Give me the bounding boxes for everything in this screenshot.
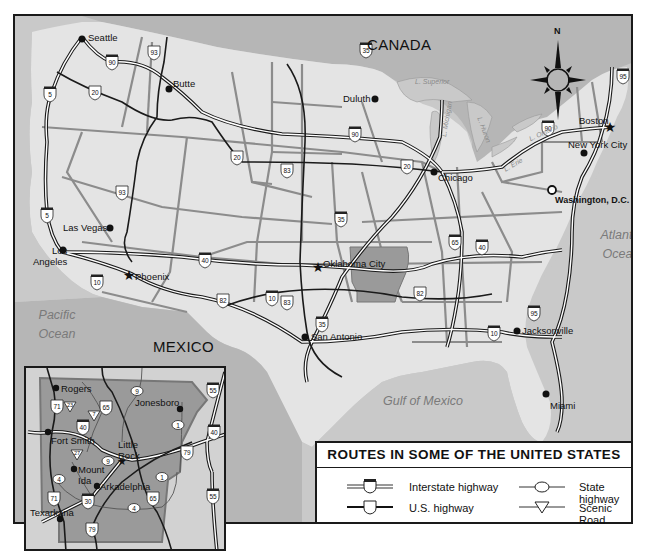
svg-text:95: 95: [530, 310, 538, 317]
svg-text:5: 5: [48, 91, 52, 98]
svg-text:93: 93: [150, 49, 158, 56]
inset-city-arkadelphia: Arkadelphia: [100, 482, 150, 492]
svg-text:82: 82: [219, 297, 227, 304]
inset-city-fort-smith: Fort Smith: [51, 436, 95, 446]
svg-text:4: 4: [132, 505, 136, 512]
legend: ROUTES IN SOME OF THE UNITED STATES Inte…: [315, 441, 633, 524]
svg-text:40: 40: [79, 424, 87, 431]
inset-city-texarkana: Texarkana: [30, 508, 74, 518]
svg-text:20: 20: [403, 163, 411, 170]
city-san-antonio: San Antonio: [311, 332, 362, 342]
city-phoenix: Phoenix: [135, 272, 169, 282]
svg-text:10: 10: [490, 330, 498, 337]
label-canada: CANADA: [367, 36, 431, 53]
scenic-road-symbol-icon: [517, 499, 567, 515]
svg-text:10: 10: [268, 295, 276, 302]
svg-text:65: 65: [102, 404, 110, 411]
svg-text:82: 82: [416, 290, 424, 297]
state-highway-symbol-icon: [517, 479, 567, 495]
svg-text:79: 79: [88, 526, 96, 533]
legend-interstate-label: Interstate highway: [409, 481, 498, 493]
label-pacific-ocean: PacificOcean: [27, 306, 87, 345]
city-washington-dc: Washington, D.C.: [555, 196, 629, 205]
compass-rose: N: [528, 26, 588, 121]
svg-text:95: 95: [619, 73, 627, 80]
city-boston: Boston: [579, 116, 609, 126]
label-lake-superior: L. Superior: [415, 78, 449, 85]
compass-north-label: N: [554, 26, 561, 36]
label-gulf-of-mexico: Gulf of Mexico: [383, 392, 463, 411]
svg-text:71: 71: [50, 495, 58, 502]
svg-text:93: 93: [118, 189, 126, 196]
svg-text:1: 1: [176, 422, 180, 429]
svg-text:71: 71: [53, 403, 61, 410]
city-duluth: Duluth: [343, 94, 370, 104]
city-oklahoma-city: Oklahoma City: [323, 259, 385, 269]
svg-text:83: 83: [283, 167, 291, 174]
arkansas-inset-map: 55 40 40 30 55 71 65 79 71 65 79 9 1 9 4…: [24, 366, 226, 551]
svg-text:83: 83: [283, 299, 291, 306]
svg-text:55: 55: [209, 387, 217, 394]
svg-text:10: 10: [93, 279, 101, 286]
city-jacksonville: Jacksonville: [522, 326, 573, 336]
svg-text:40: 40: [210, 429, 218, 436]
svg-text:79: 79: [183, 449, 191, 456]
svg-text:7: 7: [92, 411, 95, 417]
svg-text:9: 9: [106, 458, 110, 465]
svg-text:20: 20: [91, 89, 99, 96]
svg-text:40: 40: [478, 244, 486, 251]
svg-text:20: 20: [233, 154, 241, 161]
legend-us-highway-label: U.S. highway: [409, 502, 474, 514]
svg-text:23: 23: [67, 402, 73, 408]
city-las-vegas: Las Vegas: [63, 223, 107, 233]
inset-city-little-rock: LittleRock: [118, 440, 140, 462]
legend-scenic-road-label: Scenic Road: [579, 502, 631, 526]
svg-text:90: 90: [108, 59, 116, 66]
svg-text:40: 40: [201, 257, 209, 264]
city-seattle: Seattle: [88, 33, 118, 43]
inset-city-rogers: Rogers: [61, 384, 92, 394]
svg-text:35: 35: [318, 321, 326, 328]
svg-text:1: 1: [160, 474, 164, 481]
interstate-symbol-icon: [345, 478, 395, 494]
svg-text:4: 4: [57, 476, 61, 483]
city-chicago: Chicago: [438, 173, 473, 183]
svg-text:65: 65: [451, 239, 459, 246]
svg-text:★: ★: [123, 267, 136, 283]
svg-text:65: 65: [149, 495, 157, 502]
inset-city-jonesboro: Jonesboro: [135, 398, 179, 408]
svg-text:30: 30: [84, 498, 92, 505]
us-highway-symbol-icon: [345, 499, 395, 515]
city-los-angeles: LosAngeles: [33, 245, 67, 268]
city-miami: Miami: [550, 401, 575, 411]
svg-text:27: 27: [74, 450, 80, 456]
svg-text:35: 35: [337, 216, 345, 223]
svg-text:5: 5: [45, 212, 49, 219]
label-mexico: MEXICO: [153, 338, 214, 355]
city-new-york-city: New York City: [568, 140, 627, 150]
label-atlantic-ocean: AtlanticOcean: [593, 226, 633, 265]
svg-text:90: 90: [351, 131, 359, 138]
legend-title: ROUTES IN SOME OF THE UNITED STATES: [317, 443, 631, 468]
svg-text:55: 55: [209, 493, 217, 500]
city-butte: Butte: [173, 79, 195, 89]
compass-icon: [528, 26, 588, 121]
svg-text:9: 9: [135, 388, 139, 395]
